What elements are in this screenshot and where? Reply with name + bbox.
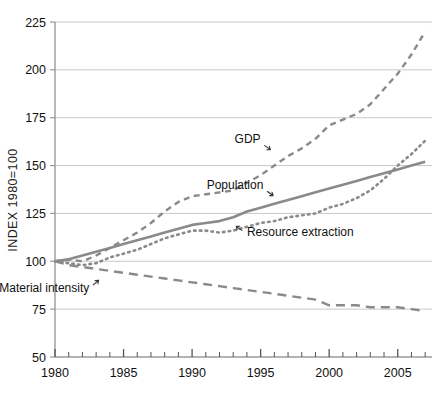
x-tick-label-2005: 2005 xyxy=(384,366,412,380)
y-tick-label-125: 125 xyxy=(25,207,46,221)
y-tick-label-200: 200 xyxy=(25,63,46,77)
annotation-label-population: Population xyxy=(207,178,264,192)
y-tick-label-75: 75 xyxy=(32,303,46,317)
index-line-chart: 2252001751501251007550 19801985199019952… xyxy=(0,0,442,396)
y-tick-label-50: 50 xyxy=(32,351,46,365)
x-tick-label-1990: 1990 xyxy=(178,366,206,380)
y-tick-label-225: 225 xyxy=(25,16,46,30)
x-tick-label-2000: 2000 xyxy=(315,366,343,380)
annotation-label-material-intensity: Material intensity xyxy=(0,281,89,295)
x-tick-label-1995: 1995 xyxy=(247,366,275,380)
y-axis-title: INDEX 1980=100 xyxy=(6,148,20,251)
y-tick-label-100: 100 xyxy=(25,255,46,269)
chart-container: 2252001751501251007550 19801985199019952… xyxy=(0,0,442,396)
plot-background xyxy=(0,0,442,396)
x-tick-label-1985: 1985 xyxy=(110,366,138,380)
annotation-label-gdp: GDP xyxy=(235,132,261,146)
y-tick-label-150: 150 xyxy=(25,159,46,173)
y-tick-label-175: 175 xyxy=(25,111,46,125)
annotation-label-resource-extraction: Resource extraction xyxy=(247,225,354,239)
x-tick-label-1980: 1980 xyxy=(41,366,69,380)
